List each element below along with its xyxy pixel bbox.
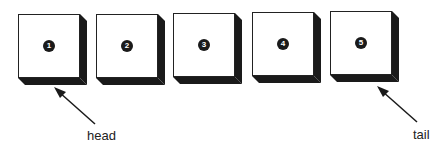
head-label: head: [87, 129, 116, 143]
pointer-arrows: [0, 0, 444, 150]
tail-arrow-icon: [377, 86, 417, 122]
head-arrow-icon: [54, 87, 95, 124]
tail-label: tail: [413, 128, 430, 142]
